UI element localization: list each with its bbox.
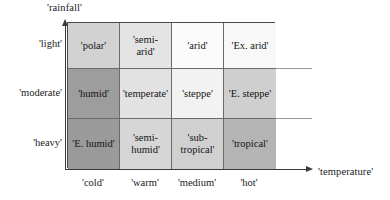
gridline-stub-light-moderate — [276, 68, 312, 69]
cell-label: 'polar' — [81, 40, 106, 52]
matrix-cell-moderate-hot: 'E. steppe' — [224, 69, 276, 119]
col-label-hot: 'hot' — [223, 177, 275, 188]
cell-label: 'semi-arid' — [133, 34, 158, 58]
climate-matrix-figure: 'rainfall' 'temperature' 'light' 'modera… — [0, 0, 390, 200]
cell-label: 'sub-tropical' — [181, 132, 215, 156]
cell-label-line-2: arid' — [136, 46, 154, 57]
row-label-light: 'light' — [39, 38, 62, 49]
x-axis-title: 'temperature' — [318, 166, 373, 177]
cell-label-line-1: 'semi- — [133, 34, 158, 45]
cell-label: 'semi-humid' — [131, 132, 160, 156]
matrix-cell-heavy-medium: 'sub-tropical' — [172, 119, 224, 169]
matrix-cell-heavy-hot: 'tropical' — [224, 119, 276, 169]
y-axis-title: 'rainfall' — [47, 2, 82, 13]
cell-label-line-2: tropical' — [181, 144, 215, 155]
x-axis-arrow-icon — [306, 166, 313, 172]
cell-label: 'tropical' — [232, 138, 268, 150]
matrix-cell-light-medium: 'arid' — [172, 23, 224, 69]
gridline-stub-moderate-heavy — [276, 118, 312, 119]
cell-label: 'E. steppe' — [229, 88, 271, 100]
matrix-cell-moderate-warm: 'temperate' — [120, 69, 172, 119]
cell-label: 'arid' — [187, 40, 207, 52]
cell-label: 'humid' — [78, 88, 109, 100]
col-label-cold: 'cold' — [67, 177, 119, 188]
cell-label: 'temperate' — [123, 88, 168, 100]
matrix-cell-moderate-cold: 'humid' — [68, 69, 120, 119]
matrix-cell-light-hot: 'Ex. arid' — [224, 23, 276, 69]
matrix-cell-light-cold: 'polar' — [68, 23, 120, 69]
col-label-medium: 'medium' — [171, 177, 223, 188]
row-label-moderate: 'moderate' — [19, 87, 62, 98]
matrix-cell-heavy-cold: 'E. humid' — [68, 119, 120, 169]
row-label-heavy: 'heavy' — [33, 137, 62, 148]
cell-label: 'E. humid' — [72, 138, 114, 150]
cell-label: 'steppe' — [182, 88, 213, 100]
matrix-cell-moderate-medium: 'steppe' — [172, 69, 224, 119]
cell-label-line-1: 'semi- — [133, 132, 158, 143]
cell-label: 'Ex. arid' — [231, 40, 268, 52]
matrix-cell-heavy-warm: 'semi-humid' — [120, 119, 172, 169]
col-label-warm: 'warm' — [119, 177, 171, 188]
cell-label-line-2: humid' — [131, 144, 160, 155]
climate-classification-matrix: 'polar' 'semi-arid' 'arid' 'Ex. arid' 'h… — [67, 22, 275, 168]
cell-label-line-1: 'sub- — [188, 132, 208, 143]
matrix-cell-light-warm: 'semi-arid' — [120, 23, 172, 69]
